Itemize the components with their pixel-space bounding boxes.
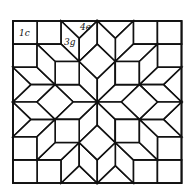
quilt-piece — [157, 44, 181, 67]
quilt-piece — [115, 119, 139, 142]
label-4e: 4e — [79, 22, 91, 32]
quilt-piece — [37, 21, 61, 44]
quilt-piece — [115, 62, 139, 85]
quilt-piece — [133, 160, 157, 183]
quilt-piece — [13, 44, 37, 67]
quilt-piece — [157, 137, 181, 160]
quilt-piece — [55, 62, 79, 85]
quilt-piece — [157, 21, 181, 44]
label-3g: 3g — [64, 37, 76, 47]
label-1c: 1c — [19, 28, 30, 38]
quilt-piece — [37, 160, 61, 183]
quilt-piece — [13, 137, 37, 160]
quilt-pieces — [13, 21, 182, 183]
quilt-piece — [55, 119, 79, 142]
quilt-piece — [157, 160, 181, 183]
quilt-piece — [133, 21, 157, 44]
quilt-piece — [13, 160, 37, 183]
quilt-block-diagram: 1c 4e 3g — [0, 0, 186, 191]
